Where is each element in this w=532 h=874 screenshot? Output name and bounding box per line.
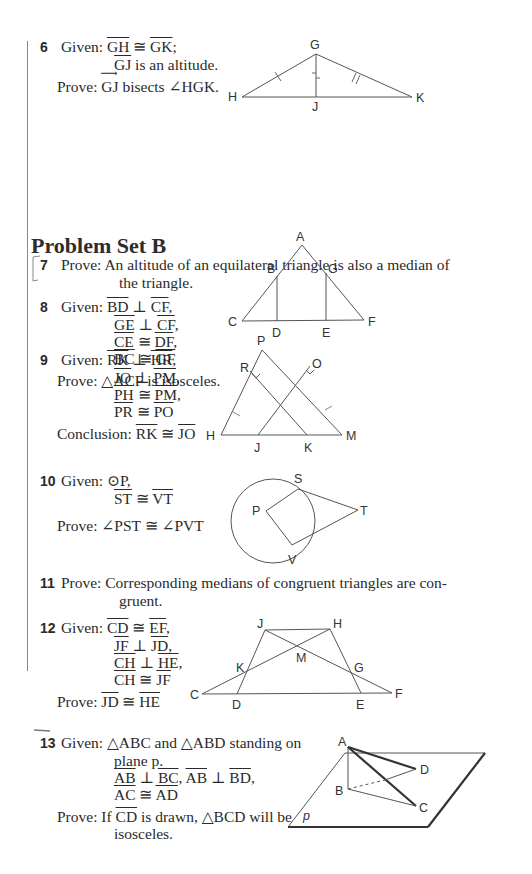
- prove-label: Prove:: [61, 256, 101, 273]
- given-segment: GK: [150, 38, 172, 55]
- svg-text:C: C: [190, 688, 199, 702]
- problem-12: 12 Given: CD ≅ EF, JF ⊥ JD, CH ⊥ HE, CH …: [40, 619, 182, 710]
- problem-number: 12: [40, 620, 57, 637]
- problem-13: 13 Given: △ABC and △ABD standing on plan…: [40, 734, 301, 842]
- svg-text:G: G: [354, 661, 364, 675]
- svg-text:E: E: [322, 326, 330, 340]
- given-label: Given:: [61, 619, 103, 636]
- svg-text:E: E: [356, 698, 364, 712]
- svg-text:C: C: [419, 801, 428, 815]
- problem-9: 9 Given: RK ⊥ HR, JO ⊥ PM, PH ≅ PM, PR ≅…: [40, 351, 195, 442]
- prove-line: isosceles.: [40, 825, 301, 842]
- prove-line: Corresponding medians of congruent trian…: [105, 574, 447, 591]
- prove-statement: ∠PST ≅ ∠PVT: [101, 517, 203, 534]
- svg-text:H: H: [206, 429, 215, 443]
- svg-text:B: B: [267, 262, 275, 276]
- problem-number: 13: [40, 735, 57, 752]
- figure-triangle-acf: ABG CDEF: [220, 225, 400, 345]
- figure-3d-plane: ADBC p: [285, 740, 495, 840]
- problem-10: 10 Given: ⊙P, ST ≅ VT Prove: ∠PST ≅ ∠PVT: [40, 472, 204, 534]
- given-label: Given:: [61, 298, 103, 315]
- svg-text:J: J: [257, 617, 263, 631]
- svg-text:K: K: [304, 441, 313, 455]
- figure-triangle-hgk: GHJK: [220, 40, 420, 120]
- figure-trapezoid: JHM KG CDEF: [190, 620, 410, 710]
- svg-text:M: M: [296, 651, 306, 665]
- svg-text:J: J: [254, 441, 260, 455]
- svg-text:O: O: [312, 357, 322, 371]
- margin-rule: [27, 41, 28, 671]
- svg-text:J: J: [312, 100, 318, 114]
- svg-text:D: D: [232, 698, 241, 712]
- problem-6: 6 Given: GH ≅ GK; GJ is an altitude. Pro…: [40, 38, 219, 95]
- svg-text:D: D: [272, 326, 281, 340]
- svg-text:H: H: [333, 617, 342, 631]
- figure-triangle-phm: PRO HJKM: [200, 340, 380, 460]
- problem-11: 11 Prove: Corresponding medians of congr…: [40, 574, 447, 609]
- conclusion-label: Conclusion:: [57, 425, 132, 442]
- given-line: plane p.: [40, 752, 301, 769]
- svg-text:D: D: [420, 763, 429, 777]
- prove-label: Prove:: [57, 808, 97, 825]
- problem-number: 6: [40, 39, 57, 56]
- svg-text:G: G: [310, 38, 320, 52]
- prove-label: Prove:: [57, 517, 97, 534]
- problem-number: 10: [40, 473, 57, 490]
- prove-line: gruent.: [40, 592, 447, 609]
- svg-text:G: G: [328, 262, 338, 276]
- prove-label: Prove:: [57, 693, 97, 710]
- svg-text:S: S: [294, 472, 302, 486]
- prove-label: Prove:: [61, 574, 101, 591]
- bracket-mark: [30, 254, 45, 284]
- svg-text:A: A: [338, 735, 347, 749]
- given-label: Given:: [61, 472, 103, 489]
- svg-text:P: P: [252, 504, 260, 518]
- problem-number: 11: [40, 575, 57, 592]
- svg-text:M: M: [346, 429, 356, 443]
- given-label: Given:: [61, 734, 103, 751]
- svg-text:P: P: [257, 334, 265, 348]
- given-line: △ABC and △ABD standing on: [107, 734, 301, 751]
- svg-text:V: V: [288, 553, 297, 567]
- svg-text:B: B: [335, 784, 343, 798]
- prove-line: Prove: GJ bisects ∠HGK.: [40, 78, 219, 95]
- svg-text:T: T: [360, 504, 368, 518]
- svg-text:p: p: [302, 809, 310, 823]
- given-label: Given:: [61, 351, 103, 368]
- svg-text:C: C: [228, 315, 237, 329]
- svg-text:F: F: [368, 315, 376, 329]
- svg-text:H: H: [228, 90, 237, 104]
- svg-text:K: K: [236, 661, 245, 675]
- svg-text:K: K: [416, 91, 425, 105]
- problem-number: 8: [40, 299, 57, 316]
- given-line: GH: [107, 38, 129, 55]
- svg-text:A: A: [296, 230, 305, 244]
- svg-text:F: F: [395, 687, 403, 701]
- given-label: Given:: [61, 38, 103, 55]
- svg-text:R: R: [240, 361, 249, 375]
- problem-number: 9: [40, 352, 57, 369]
- given-line: GJ is an altitude.: [40, 56, 219, 73]
